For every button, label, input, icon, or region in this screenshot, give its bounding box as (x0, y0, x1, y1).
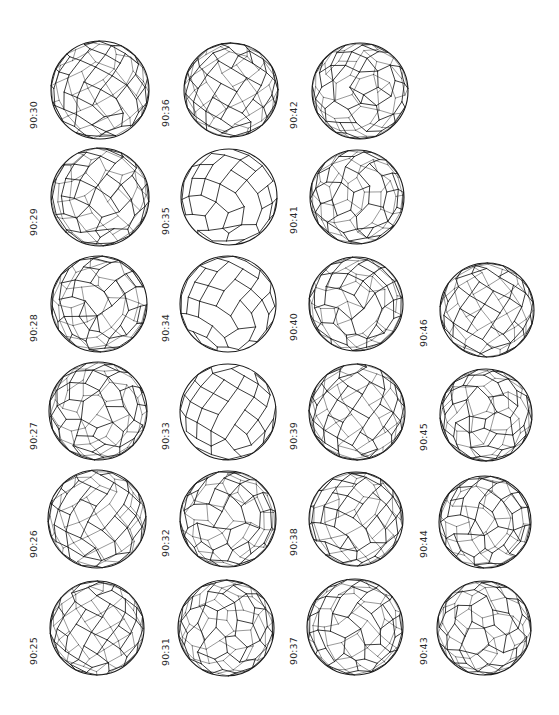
fullerene-isomer-90-44 (436, 473, 534, 571)
fullerene-cage-drawing (307, 147, 407, 247)
fullerene-cage-drawing (46, 359, 150, 463)
fullerene-isomer-90-32 (177, 468, 279, 570)
fullerene-cage-drawing (177, 361, 279, 463)
fullerene-cage-drawing (47, 578, 147, 678)
fullerene-cage-drawing (48, 253, 150, 355)
fullerene-isomer-90-40 (306, 254, 406, 354)
fullerene-isomer-90-34 (177, 253, 279, 355)
fullerene-isomer-90-29 (48, 145, 152, 249)
isomer-label: 90:39 (288, 422, 299, 450)
fullerene-isomer-90-37 (304, 576, 406, 678)
fullerene-cage-drawing (48, 38, 152, 142)
fullerene-isomer-90-41 (307, 147, 407, 247)
isomer-label: 90:36 (160, 99, 171, 127)
fullerene-isomer-90-39 (306, 361, 408, 463)
isomer-label: 90:26 (28, 530, 39, 558)
fullerene-cage-drawing (436, 473, 534, 571)
fullerene-isomer-90-27 (46, 359, 150, 463)
fullerene-isomer-figure: 90:3090:2990:2890:2790:2690:2590:3690:35… (0, 0, 559, 715)
fullerene-cage-drawing (306, 469, 406, 569)
isomer-label: 90:28 (28, 314, 39, 342)
fullerene-cage-drawing (45, 467, 149, 571)
fullerene-isomer-90-36 (181, 40, 281, 140)
fullerene-cage-drawing (304, 576, 406, 678)
isomer-label: 90:34 (160, 314, 171, 342)
isomer-label: 90:33 (160, 422, 171, 450)
isomer-label: 90:38 (288, 528, 299, 556)
fullerene-cage-drawing (306, 254, 406, 354)
isomer-label: 90:44 (418, 530, 429, 558)
fullerene-cage-drawing (434, 578, 534, 678)
isomer-label: 90:45 (418, 423, 429, 451)
isomer-label: 90:30 (28, 101, 39, 129)
isomer-label: 90:41 (288, 206, 299, 234)
fullerene-cage-drawing (437, 366, 535, 464)
fullerene-isomer-90-31 (175, 577, 277, 679)
isomer-label: 90:31 (160, 638, 171, 666)
fullerene-isomer-90-26 (45, 467, 149, 571)
fullerene-cage-drawing (177, 253, 279, 355)
fullerene-cage-drawing (175, 577, 277, 679)
fullerene-cage-drawing (437, 260, 537, 360)
isomer-label: 90:32 (160, 529, 171, 557)
isomer-label: 90:40 (288, 313, 299, 341)
isomer-label: 90:46 (418, 319, 429, 347)
fullerene-isomer-90-43 (434, 578, 534, 678)
fullerene-isomer-90-28 (48, 253, 150, 355)
fullerene-cage-drawing (48, 145, 152, 249)
isomer-label: 90:43 (418, 637, 429, 665)
fullerene-isomer-90-35 (178, 146, 280, 248)
fullerene-isomer-90-25 (47, 578, 147, 678)
fullerene-isomer-90-45 (437, 366, 535, 464)
isomer-label: 90:27 (28, 422, 39, 450)
fullerene-cage-drawing (178, 146, 280, 248)
fullerene-isomer-90-42 (309, 40, 411, 142)
isomer-label: 90:25 (28, 637, 39, 665)
isomer-label: 90:42 (288, 101, 299, 129)
fullerene-cage-drawing (306, 361, 408, 463)
fullerene-isomer-90-46 (437, 260, 537, 360)
fullerene-isomer-90-30 (48, 38, 152, 142)
isomer-label: 90:35 (160, 207, 171, 235)
isomer-label: 90:29 (28, 208, 39, 236)
isomer-label: 90:37 (288, 637, 299, 665)
fullerene-isomer-90-38 (306, 469, 406, 569)
fullerene-isomer-90-33 (177, 361, 279, 463)
fullerene-cage-drawing (309, 40, 411, 142)
fullerene-cage-drawing (177, 468, 279, 570)
fullerene-cage-drawing (181, 40, 281, 140)
